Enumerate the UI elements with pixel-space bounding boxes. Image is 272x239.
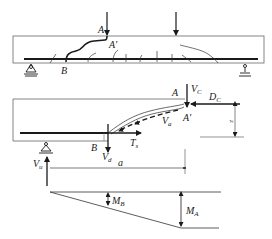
- shear-failure-diagram: A A' B z: [0, 0, 272, 239]
- label-B-top: B: [61, 65, 67, 76]
- free-body-support: [39, 143, 53, 154]
- label-Ma: MA: [185, 205, 199, 218]
- top-beam-panel: A A' B: [13, 12, 264, 76]
- label-Mb: MB: [111, 195, 125, 208]
- label-a: a: [118, 157, 123, 168]
- label-Dc: DC: [208, 91, 221, 104]
- right-roller-support: [239, 65, 251, 77]
- moment-diagram-panel: MB MA: [50, 192, 221, 228]
- left-pin-support: [24, 64, 38, 76]
- label-z: z: [228, 119, 236, 123]
- label-Vd: Vd: [102, 151, 112, 164]
- label-A-prime-top: A': [108, 39, 118, 50]
- segment-outline: [13, 99, 185, 141]
- label-A-mid: A: [171, 87, 179, 98]
- label-Ts: Ts: [130, 137, 139, 150]
- label-Va: Va: [162, 115, 172, 128]
- label-Vc: VC: [191, 83, 202, 96]
- label-A-top: A: [97, 24, 105, 35]
- label-B-mid: B: [91, 142, 97, 153]
- flexural-cracks: [50, 45, 218, 63]
- free-body-panel: z A A' B VC DC Va Ts Vd Vu a: [13, 83, 244, 186]
- label-A-prime-mid: A': [182, 112, 192, 123]
- label-Vu: Vu: [33, 158, 43, 171]
